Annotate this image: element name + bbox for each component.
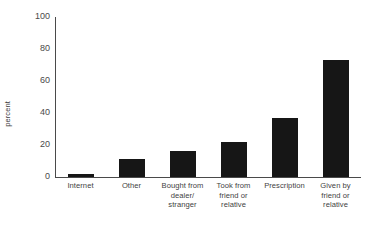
x-tick-label: Took fromfriend orrelative bbox=[208, 181, 259, 210]
x-tick-label-line: dealer/ bbox=[157, 191, 208, 201]
x-tick-label: Internet bbox=[55, 181, 106, 191]
y-tick-label: 40 bbox=[0, 108, 50, 117]
x-tick-label: Other bbox=[106, 181, 157, 191]
y-tick-label: 80 bbox=[0, 44, 50, 53]
bar bbox=[272, 118, 298, 177]
x-tick-label-line: stranger bbox=[157, 200, 208, 210]
y-tick-label: 60 bbox=[0, 76, 50, 85]
bar bbox=[170, 151, 196, 177]
bar bbox=[323, 60, 349, 177]
x-tick-label-line: relative bbox=[208, 200, 259, 210]
x-tick-label-line: Given by bbox=[310, 181, 361, 191]
bar bbox=[221, 142, 247, 177]
plot-area bbox=[55, 17, 361, 177]
x-tick-label-line: friend or bbox=[208, 191, 259, 201]
y-tick-label: 20 bbox=[0, 140, 50, 149]
bar bbox=[68, 174, 94, 177]
y-tick-label: 0 bbox=[0, 172, 50, 181]
x-axis-line bbox=[55, 177, 361, 178]
x-tick-label-line: Internet bbox=[55, 181, 106, 191]
x-tick-label-line: friend or bbox=[310, 191, 361, 201]
y-tick-label: 100 bbox=[0, 12, 50, 21]
x-tick-label-line: Prescription bbox=[259, 181, 310, 191]
x-tick-label: Given byfriend orrelative bbox=[310, 181, 361, 210]
x-tick-label-line: Took from bbox=[208, 181, 259, 191]
x-tick-label-line: relative bbox=[310, 200, 361, 210]
x-tick-label-line: Bought from bbox=[157, 181, 208, 191]
x-tick-label-line: Other bbox=[106, 181, 157, 191]
x-tick-label: Prescription bbox=[259, 181, 310, 191]
x-tick-label: Bought fromdealer/stranger bbox=[157, 181, 208, 210]
bar bbox=[119, 159, 145, 177]
bar-chart: percent 020406080100 InternetOtherBought… bbox=[0, 0, 367, 232]
